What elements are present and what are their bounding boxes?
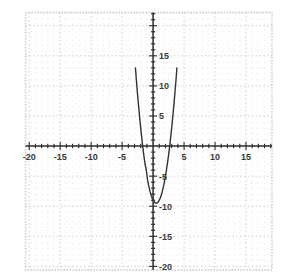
y-tick-label: 5: [159, 111, 164, 121]
x-tick-label: -20: [23, 152, 36, 162]
x-tick-label: 5: [182, 152, 187, 162]
x-tick-label: 10: [210, 152, 220, 162]
x-tick-label: 15: [241, 152, 251, 162]
y-tick-label: -10: [159, 202, 172, 212]
y-tick-label: -20: [159, 262, 172, 272]
chart-container: -20-15-10-55101515105-5-10-15-20: [0, 0, 285, 278]
graph-canvas: -20-15-10-55101515105-5-10-15-20: [0, 0, 285, 278]
x-tick-label: -5: [118, 152, 126, 162]
x-tick-label: -15: [54, 152, 67, 162]
y-tick-label: -15: [159, 232, 172, 242]
y-tick-label: 15: [159, 51, 169, 61]
x-tick-label: -10: [85, 152, 98, 162]
y-tick-label: 10: [159, 81, 169, 91]
